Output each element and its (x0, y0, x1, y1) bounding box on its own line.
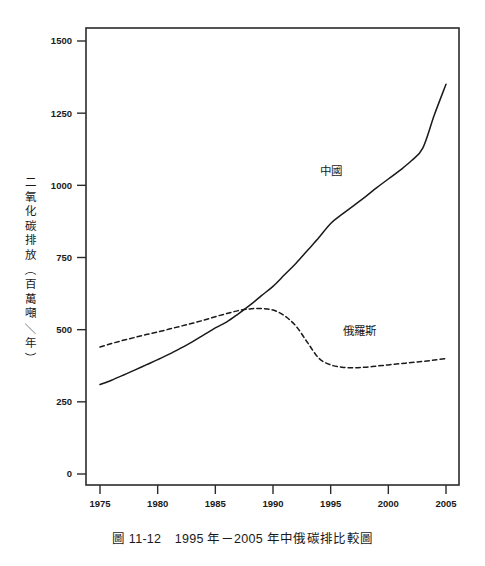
y-axis-title-char: （ (24, 264, 36, 275)
y-tick-label: 250 (56, 396, 72, 407)
co2-emissions-line-chart: 0250500750100012501500197519801985199019… (0, 0, 485, 566)
y-axis-title-char: 放 (25, 248, 37, 261)
y-axis-title: 二氧化碳排放（百萬噸／年） (24, 176, 37, 363)
x-tick-label: 1980 (147, 498, 168, 509)
y-axis-title-char: 百 (25, 278, 36, 290)
figure-caption: 圖 11-12 1995 年－2005 年中俄碳排比較圖 (0, 528, 485, 547)
x-tick-label: 2000 (378, 498, 399, 509)
y-axis-title-char: 噸 (25, 306, 37, 319)
x-tick-label: 2005 (435, 498, 457, 509)
y-axis-title-char: ／ (24, 323, 36, 335)
y-tick-label: 1000 (51, 180, 72, 191)
x-tick-label: 1995 (320, 498, 342, 509)
y-tick-label: 0 (67, 468, 72, 479)
y-tick-label: 750 (56, 252, 72, 263)
y-tick-label: 1500 (51, 35, 72, 46)
plot-frame (86, 28, 459, 485)
x-axis: 1975198019851990199520002005 (89, 485, 457, 509)
y-tick-label: 500 (56, 324, 72, 335)
y-axis-title-char: 萬 (25, 293, 36, 305)
figure-container: 0250500750100012501500197519801985199019… (0, 0, 485, 566)
y-tick-label: 1250 (51, 108, 72, 119)
y-axis-title-char: ） (24, 352, 36, 363)
x-tick-label: 1975 (89, 498, 111, 509)
y-axis-title-char: 碳 (25, 219, 37, 232)
series-label-china: 中國 (320, 165, 342, 177)
y-axis-title-char: 排 (25, 233, 37, 246)
x-tick-label: 1985 (205, 498, 227, 509)
y-axis-title-char: 二 (25, 176, 36, 188)
y-axis-title-char: 年 (25, 336, 36, 349)
y-axis: 0250500750100012501500 (51, 35, 86, 479)
y-axis-title-char: 化 (25, 204, 37, 217)
x-tick-label: 1990 (262, 498, 283, 509)
series-label-russia: 俄羅斯 (343, 325, 377, 337)
y-axis-title-char: 氧 (25, 190, 37, 203)
